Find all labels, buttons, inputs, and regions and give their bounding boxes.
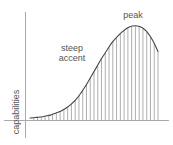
annotation-steep-line2: accent: [52, 53, 92, 63]
figure-canvas: capabilities steep accent peak: [0, 0, 173, 145]
hatch-fill: [34, 26, 158, 120]
annotation-peak: peak: [118, 10, 148, 20]
annotation-steep-line1: steep: [52, 43, 92, 53]
annotation-steep-accent: steep accent: [52, 43, 92, 63]
y-axis-label-wrap: capabilities: [0, 66, 50, 78]
y-axis-label: capabilities: [11, 79, 23, 145]
